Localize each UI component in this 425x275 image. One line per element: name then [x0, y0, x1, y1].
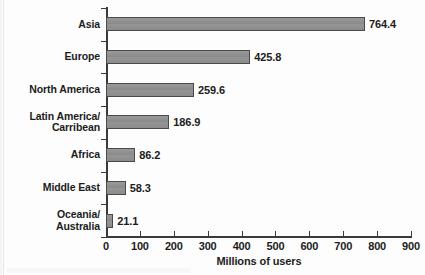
- category-label-line: Asia: [0, 19, 100, 31]
- bar-latin-america-carribean: [106, 115, 169, 129]
- y-axis-tick: [101, 172, 107, 173]
- x-axis-line: [106, 236, 412, 238]
- category-label-line: Europe: [0, 51, 100, 63]
- x-axis-tick: [174, 231, 175, 237]
- category-label-line: Australia: [0, 221, 100, 233]
- bar-value-label: 425.8: [254, 51, 281, 63]
- category-label-line: North America: [0, 84, 100, 96]
- y-axis-tick: [101, 106, 107, 107]
- scan-artifact: [6, 268, 191, 273]
- bar-value-label: 186.9: [173, 116, 200, 128]
- bar-value-label: 764.4: [369, 18, 396, 30]
- category-label-line: Oceania/: [0, 209, 100, 221]
- category-label-latin-america-carribean: Latin America/Carribean: [0, 111, 100, 134]
- y-axis-tick: [101, 237, 107, 238]
- x-axis-tick: [208, 231, 209, 237]
- x-axis-tick: [275, 231, 276, 237]
- bar-europe: [106, 50, 250, 64]
- category-label-north-america: North America: [0, 84, 100, 96]
- x-axis-tick: [377, 231, 378, 237]
- x-axis-tick-label: 900: [391, 240, 425, 252]
- y-axis-tick: [101, 8, 107, 9]
- category-label-line: Carribean: [0, 122, 100, 134]
- page-scan-edge: [3, 0, 4, 275]
- bar-value-label: 259.6: [198, 84, 225, 96]
- bar-value-label: 58.3: [130, 182, 151, 194]
- bar-asia: [106, 17, 365, 31]
- bar-africa: [106, 148, 135, 162]
- y-axis-tick: [101, 139, 107, 140]
- category-label-africa: Africa: [0, 149, 100, 161]
- category-label-middle-east: Middle East: [0, 182, 100, 194]
- y-axis-tick: [101, 204, 107, 205]
- y-axis-tick: [101, 41, 107, 42]
- x-axis-tick: [242, 231, 243, 237]
- category-label-line: Africa: [0, 149, 100, 161]
- x-axis-tick: [309, 231, 310, 237]
- y-axis-tick: [101, 73, 107, 74]
- bar-north-america: [106, 83, 194, 97]
- category-label-europe: Europe: [0, 51, 100, 63]
- bar-oceania-australia: [106, 214, 113, 228]
- x-axis-tick: [140, 231, 141, 237]
- x-axis-title: Millions of users: [106, 255, 412, 267]
- x-axis-tick: [411, 231, 412, 237]
- x-axis-tick: [106, 231, 107, 237]
- category-label-asia: Asia: [0, 19, 100, 31]
- bar-middle-east: [106, 181, 126, 195]
- bar-chart: Asia764.4Europe425.8North America259.6La…: [0, 0, 425, 275]
- category-label-oceania-australia: Oceania/Australia: [0, 209, 100, 232]
- x-axis-tick: [343, 231, 344, 237]
- bar-value-label: 21.1: [117, 215, 138, 227]
- bar-value-label: 86.2: [139, 149, 160, 161]
- category-label-line: Middle East: [0, 182, 100, 194]
- page-scan-edge-outer: [0, 0, 2, 275]
